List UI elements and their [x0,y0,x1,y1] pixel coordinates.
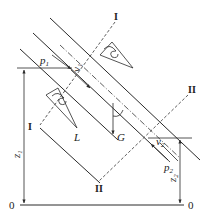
pipe-wall-lower-2 [40,128,100,183]
pipe-wall-lower [20,49,118,140]
height-z1: z1 [10,70,24,203]
section-1-bottom-label: I [28,121,32,132]
section-2-top-label: II [188,84,196,95]
pressure-p1: p1 [39,54,71,69]
datum-left-label: 0 [9,199,15,211]
datum-line-0-0: 0 0 [9,199,194,211]
inclined-pipe [20,18,200,183]
p2-label: p2 [163,161,174,175]
z2-label: z2 [166,174,180,183]
v1-label: v1 [70,64,84,72]
pressure-p2: p2 [151,143,178,175]
pipe-wall-middle [33,33,168,160]
length-L-label: L [73,131,80,143]
section-2-bottom-label: II [95,183,103,194]
p1-label: p1 [39,54,49,68]
pipe-wall-upper [50,18,200,160]
G-label: G [117,131,125,143]
velocity-profile-lower [46,88,77,128]
z1-label: z1 [10,150,24,159]
velocity-profile-upper [100,42,133,68]
datum-right-label: 0 [188,199,194,211]
pipe-flow-diagram: I I II II 0 0 z1 z2 p1 [0,0,204,224]
section-1-top-label: I [114,11,118,22]
